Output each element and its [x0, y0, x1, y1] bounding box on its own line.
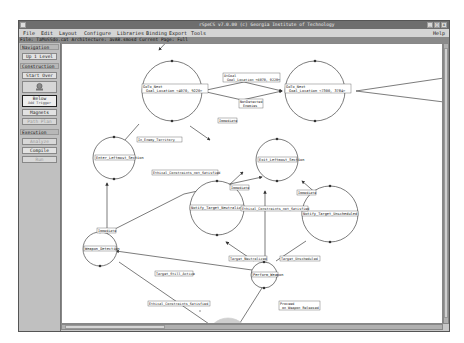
transition-label[interactable]: In_Enemy_Territory — [138, 138, 175, 142]
state-label: Enter_Leftmost_Section — [96, 156, 144, 160]
transition-edge[interactable] — [242, 91, 282, 100]
transition-label[interactable]: Target_Neutralized — [230, 257, 267, 261]
menu-binding[interactable]: Binding — [146, 29, 167, 37]
window-title: rSpeCS v7.0.00 (c) Georgia Institute of … — [199, 21, 334, 29]
transition-sublabel: Goal_Location <4070, 9220> — [227, 78, 280, 82]
sidebar: Navigation Up 1 Level Construction Start… — [19, 43, 61, 331]
menu-file[interactable]: File — [23, 29, 35, 37]
maximize-button[interactable]: □ — [434, 22, 440, 28]
state-label: Perform_Weapon — [253, 273, 283, 277]
transition-label[interactable]: Immediate — [231, 186, 249, 190]
diagram-canvas[interactable]: GoTo_Next Goal_Location <4070, 9220> GoT… — [61, 43, 443, 324]
magnets-button[interactable]: Magnets — [22, 109, 57, 116]
execution-header: Execution — [20, 129, 59, 135]
select-tool-button[interactable] — [22, 81, 57, 93]
fsa-diagram: GoTo_Next Goal_Location <4070, 9220> GoT… — [62, 44, 443, 324]
below-add-trigger-button[interactable]: Below Add Trigger — [22, 95, 57, 107]
up-level-button[interactable]: Up 1 Level — [22, 53, 57, 60]
transition-label[interactable]: Ethical_Constraints_Satisfied — [149, 302, 208, 306]
state-sublabel: Goal_Location <7300, 3784> — [289, 89, 346, 93]
state-sublabel: Goal_Location <4070, 9220> — [146, 89, 203, 93]
menu-bar: File Edit Layout Configure Libraries Bin… — [19, 29, 449, 37]
construction-header: Construction — [20, 63, 59, 69]
menu-edit[interactable]: Edit — [41, 29, 53, 37]
state-label: Exit_Leftmost_Section — [259, 158, 304, 162]
transition-edge[interactable] — [107, 194, 184, 233]
state-label: Notify_Target_Unscheduled — [303, 212, 357, 216]
state-label: Weapon_Detection — [85, 247, 120, 251]
title-bar[interactable]: rSpeCS v7.0.00 (c) Georgia Institute of … — [19, 21, 449, 29]
menu-libraries[interactable]: Libraries — [117, 29, 144, 37]
navigation-header: Navigation — [20, 44, 59, 50]
transition-label[interactable]: Immediate — [98, 229, 116, 233]
below-sublabel: Add Trigger — [23, 101, 56, 106]
menu-tools[interactable]: Tools — [191, 29, 206, 37]
transition-label[interactable]: Immediate — [219, 119, 237, 123]
analyze-button[interactable]: Analyze — [22, 138, 57, 145]
menu-export[interactable]: Export — [169, 29, 187, 37]
transition-label[interactable]: Target_Still_Active — [156, 272, 195, 276]
scroll-corner — [443, 324, 449, 330]
transition-label[interactable]: Target_Unscheduled — [281, 257, 318, 261]
transition-sublabel: Enemies — [243, 104, 257, 108]
menu-layout[interactable]: Layout — [59, 29, 77, 37]
cursor-dot — [199, 310, 200, 311]
transition-sublabel: on Weapon Released — [282, 306, 319, 310]
vertical-scroll-thumb[interactable] — [444, 48, 448, 318]
run-button[interactable]: Run — [22, 156, 57, 163]
transition-label[interactable]: Ethical_Constraints_not_Satisfied — [153, 171, 220, 175]
status-text: File: TaMoSSdo.cat Architecture: avAB.sm… — [19, 37, 188, 42]
start-over-button[interactable]: Start Over — [22, 72, 57, 79]
vertical-scrollbar[interactable] — [443, 43, 449, 324]
compile-button[interactable]: Compile — [22, 147, 57, 154]
transition-edge[interactable] — [190, 126, 210, 140]
transition-edge[interactable] — [356, 78, 443, 91]
transition-edge[interactable] — [202, 82, 244, 91]
transition-edge[interactable] — [244, 82, 282, 91]
app-window: rSpeCS v7.0.00 (c) Georgia Institute of … — [18, 20, 450, 332]
window-menu-button[interactable] — [20, 22, 26, 28]
transition-edge[interactable] — [159, 44, 174, 50]
close-button[interactable]: x — [441, 22, 447, 28]
menu-configure[interactable]: Configure — [84, 29, 111, 37]
minimize-button[interactable]: _ — [427, 22, 433, 28]
transition-label[interactable]: Immediate — [298, 191, 316, 195]
horizontal-scrollbar[interactable] — [61, 324, 443, 330]
transition-edge[interactable] — [356, 91, 443, 102]
path-plan-button[interactable]: Path Plan — [22, 118, 57, 125]
menu-help[interactable]: Help — [433, 29, 445, 37]
robot-icon — [23, 82, 56, 92]
transition-label[interactable]: Ethical_Constraints_not_Satisfied — [242, 207, 309, 211]
horizontal-scroll-thumb[interactable] — [65, 325, 165, 329]
state-label: Notify_Target_Neutralized — [191, 206, 245, 210]
